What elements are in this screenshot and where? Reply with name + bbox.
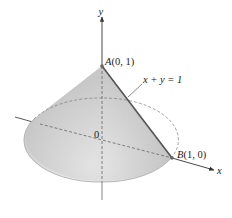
y-axis-label: y bbox=[98, 6, 104, 17]
line-equation-label: x + y = 1 bbox=[142, 74, 182, 85]
point-a-label: A(0, 1) bbox=[104, 56, 135, 68]
origin-label: 0 bbox=[94, 129, 99, 140]
label-leader-line bbox=[128, 84, 142, 97]
x-axis-label: x bbox=[216, 165, 222, 176]
point-a-marker bbox=[100, 64, 104, 68]
point-b-label: B(1, 0) bbox=[177, 149, 207, 161]
point-b-coords: (1, 0) bbox=[183, 149, 206, 161]
cone-of-revolution-diagram: y x 0 A(0, 1) B(1, 0) x + y = 1 bbox=[0, 0, 232, 218]
point-b-marker bbox=[170, 156, 174, 160]
point-a-coords: (0, 1) bbox=[111, 56, 134, 68]
